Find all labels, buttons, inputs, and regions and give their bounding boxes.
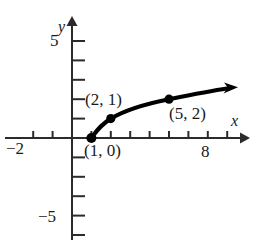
y-tick-label-negative-5: −5: [38, 208, 56, 225]
x-axis-ticks: [33, 131, 227, 138]
x-axis: [5, 133, 250, 144]
x-tick-label-8: 8: [201, 143, 210, 160]
x-axis-arrowhead: [240, 133, 250, 144]
y-axis: [67, 16, 78, 240]
data-point-5-2: [164, 95, 173, 104]
point-annotation-5-2: (5, 2): [169, 105, 206, 122]
graph-figure: y x 5 −5 −2 8 (2, 1) (1, 0) (5, 2): [0, 0, 258, 244]
point-annotation-1-0: (1, 0): [84, 142, 121, 159]
x-axis-label: x: [231, 113, 238, 129]
y-axis-label: y: [58, 19, 65, 35]
y-tick-label-5: 5: [50, 32, 59, 49]
data-point-2-1: [106, 114, 115, 123]
point-annotation-2-1: (2, 1): [85, 91, 122, 108]
y-axis-arrowhead: [67, 16, 78, 26]
x-tick-label-negative-2: −2: [6, 140, 24, 157]
